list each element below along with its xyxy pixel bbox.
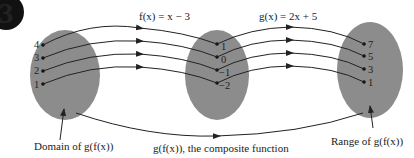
range-label: Range of g(f(x)) [331,135,403,148]
domain-value: 1 [34,79,39,90]
range-value: 1 [368,77,373,88]
f-function-label: f(x) = x − 3 [139,10,190,23]
composite-label: g(f(x)), the composite function [153,142,289,155]
domain-label: Domain of g(f(x)) [34,140,114,153]
domain-value: 3 [34,52,39,63]
middle-value: 1 [221,41,226,52]
range-value: 5 [368,51,373,62]
domain-value: 4 [34,39,40,50]
range-value: 7 [368,39,373,50]
middle-value: 0 [221,54,226,65]
example-number-badge: 3 [0,0,24,30]
badge-label: 3 [0,0,14,29]
g-function-label: g(x) = 2x + 5 [259,10,318,23]
composite-function-diagram: 3 f(x) = x − 3 g(x) = 2x + 5 4 3 2 1 1 0… [0,0,414,158]
range-value: 3 [368,64,373,75]
domain-value: 2 [34,65,39,76]
